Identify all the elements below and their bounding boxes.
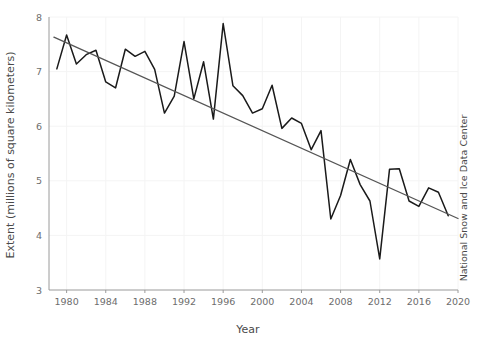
line-chart: 345678 198019841988199219962000200420082… (0, 0, 477, 345)
x-tick-label: 2012 (368, 296, 392, 307)
x-tick-label: 2000 (250, 296, 274, 307)
x-tick-label: 1992 (172, 296, 196, 307)
x-tick-label: 2016 (407, 296, 431, 307)
y-tick-label: 7 (36, 66, 42, 77)
x-tick-label: 1980 (55, 296, 79, 307)
y-axis-title: Extent (millions of square kilometers) (4, 52, 17, 259)
y-tick-label: 3 (36, 285, 42, 296)
x-tick-label: 1996 (211, 296, 235, 307)
y-tick-label: 4 (36, 230, 42, 241)
y-tick-label: 8 (36, 12, 42, 23)
x-tick-label: 2008 (328, 296, 352, 307)
x-tick-label: 2020 (446, 296, 470, 307)
x-axis-title: Year (235, 323, 260, 336)
x-tick-label: 1988 (133, 296, 157, 307)
source-credit-label: National Snow and Ice Data Center (458, 115, 469, 282)
x-tick-label: 2004 (289, 296, 313, 307)
x-tick-label: 1984 (94, 296, 118, 307)
y-tick-label: 5 (36, 175, 42, 186)
y-tick-label: 6 (36, 121, 42, 132)
chart-container: 345678 198019841988199219962000200420082… (0, 0, 477, 345)
